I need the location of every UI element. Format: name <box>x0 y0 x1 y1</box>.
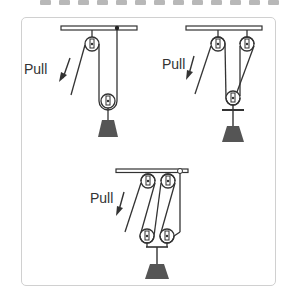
pull-label: Pull <box>162 56 185 72</box>
movable-pulley <box>101 94 115 108</box>
ceiling-beam <box>186 26 262 30</box>
pulley-system-3: Pull <box>90 169 188 280</box>
pull-arrow-icon <box>59 72 67 82</box>
pull-label: Pull <box>24 61 47 77</box>
weight <box>222 126 244 142</box>
ceiling-beam <box>61 26 137 30</box>
pull-label: Pull <box>90 190 113 206</box>
weight <box>98 120 118 137</box>
pulley-system-2: Pull <box>162 26 262 142</box>
pull-arrow-icon <box>186 70 193 80</box>
anchor-point <box>178 169 183 174</box>
pulley-system-1: Pull <box>24 26 137 137</box>
fixed-pulley <box>85 37 99 51</box>
anchor-point <box>115 26 119 30</box>
weight <box>145 264 169 279</box>
pulley-diagram: Pull Pull <box>0 0 291 301</box>
pull-arrow-icon <box>116 206 123 216</box>
